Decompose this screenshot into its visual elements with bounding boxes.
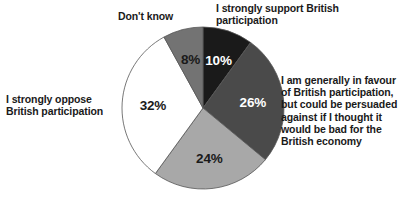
callout-label-generally-favour: I am generally in favour of British part… [281, 74, 417, 147]
slice-value-dont-know: 8% [181, 52, 200, 67]
callout-label-dont-know: Don't know [118, 10, 173, 22]
slice-value-generally-favour: 26% [240, 95, 267, 110]
slice-value-strongly-support: 10% [205, 53, 232, 68]
slice-value-unlabeled: 24% [196, 151, 223, 166]
callout-label-strongly-oppose: I strongly oppose British participation [6, 93, 122, 117]
callout-label-strongly-support: I strongly support British participation [216, 2, 348, 26]
slice-value-strongly-oppose: 32% [140, 98, 167, 113]
pie-chart-figure: 10% 26% 24% 32% 8% Don't know I strongly… [0, 0, 418, 200]
